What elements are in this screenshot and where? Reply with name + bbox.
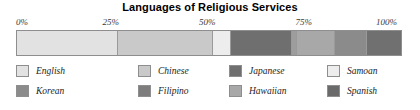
- legend-swatch: [138, 85, 151, 97]
- legend-item[interactable]: Samoan: [327, 61, 378, 81]
- bar-segment: [17, 31, 118, 55]
- legend-item[interactable]: Spanish: [327, 81, 377, 101]
- bar-segment: [231, 31, 292, 55]
- legend-label: English: [36, 65, 65, 77]
- legend-item[interactable]: Chinese: [138, 61, 189, 81]
- bar-segment: [118, 31, 214, 55]
- legend-swatch: [327, 85, 340, 97]
- legend-label: Samoan: [347, 65, 378, 77]
- x-axis-tick-label: 0%: [16, 17, 28, 28]
- legend-swatch: [229, 65, 242, 77]
- legend-row-2: KoreanFilipinoHawaiianSpanish: [16, 81, 412, 101]
- legend-label: Spanish: [347, 85, 377, 97]
- x-axis-tick-label: 50%: [199, 17, 216, 28]
- legend-item[interactable]: Filipino: [138, 81, 189, 101]
- legend-label: Chinese: [158, 65, 189, 77]
- legend-item[interactable]: English: [16, 61, 65, 81]
- legend-label: Japanese: [249, 65, 284, 77]
- legend-item[interactable]: Hawaiian: [229, 81, 286, 101]
- bar-segment: [335, 31, 368, 55]
- x-axis: 0%25%50%75%100%: [16, 17, 402, 30]
- x-axis-tick-label: 100%: [376, 17, 397, 28]
- legend-swatch: [16, 65, 29, 77]
- bar-segments-track: [17, 31, 401, 55]
- chart-legend: EnglishChineseJapaneseSamoan KoreanFilip…: [16, 61, 412, 101]
- legend-row-1: EnglishChineseJapaneseSamoan: [16, 61, 412, 81]
- x-axis-tick-label: 25%: [103, 17, 120, 28]
- legend-swatch: [229, 85, 242, 97]
- legend-label: Filipino: [158, 85, 189, 97]
- x-axis-tick-label: 75%: [296, 17, 313, 28]
- bar-segment: [213, 31, 231, 55]
- legend-swatch: [16, 85, 29, 97]
- legend-item[interactable]: Korean: [16, 81, 64, 101]
- stacked-bar: [16, 30, 402, 56]
- legend-swatch: [138, 65, 151, 77]
- legend-label: Hawaiian: [249, 85, 286, 97]
- legend-swatch: [327, 65, 340, 77]
- bar-segment: [297, 31, 335, 55]
- chart-title: Languages of Religious Services: [0, 1, 420, 13]
- legend-label: Korean: [36, 85, 64, 97]
- stacked-bar-chart: Languages of Religious Services 0%25%50%…: [0, 0, 420, 110]
- bar-segment: [367, 31, 401, 55]
- legend-item[interactable]: Japanese: [229, 61, 284, 81]
